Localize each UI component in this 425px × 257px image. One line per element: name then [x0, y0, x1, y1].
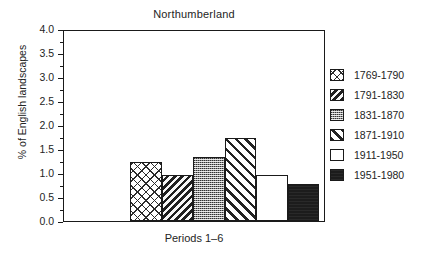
legend-swatch-icon — [330, 89, 344, 101]
legend-swatch-icon — [330, 69, 344, 81]
legend-item[interactable]: 1769-1790 — [330, 66, 422, 83]
legend-swatch-icon — [330, 169, 344, 181]
y-axis-tick-label: 2.0 — [39, 119, 54, 131]
bar — [288, 184, 320, 221]
legend-item[interactable]: 1951-1980 — [330, 167, 422, 184]
y-axis-minor-tick — [0, 210, 63, 211]
y-axis-tick: 1.5 — [0, 150, 63, 151]
plot-area — [63, 30, 325, 222]
y-axis-tick-mark — [58, 222, 63, 223]
y-axis-minor-tick — [0, 186, 63, 187]
y-axis-minor-tick — [0, 66, 63, 67]
legend-item[interactable]: 1871-1910 — [330, 127, 422, 144]
y-axis-tick: 0.0 — [0, 222, 63, 223]
y-axis-tick: 1.0 — [0, 174, 63, 175]
y-axis-tick-label: 0.5 — [39, 191, 54, 203]
legend-swatch-icon — [330, 129, 344, 141]
y-axis-tick-label: 3.0 — [39, 71, 54, 83]
legend-swatch-icon — [330, 149, 344, 161]
y-axis-minor-tick — [0, 162, 63, 163]
y-axis-tick-label: 4.0 — [39, 23, 54, 35]
chart-figure: Northumberland % of English landscapes 0… — [0, 0, 425, 257]
bar — [256, 175, 288, 221]
y-axis-minor-tick — [0, 42, 63, 43]
legend-item[interactable]: 1831-1870 — [330, 106, 422, 123]
y-axis-minor-tick — [0, 138, 63, 139]
y-axis-tick-label: 0.0 — [39, 215, 54, 227]
legend-item-label: 1951-1980 — [354, 169, 404, 181]
legend-item[interactable]: 1911-1950 — [330, 147, 422, 164]
bar — [193, 157, 225, 221]
legend-item-label: 1791-1830 — [354, 89, 404, 101]
x-axis-title: Periods 1–6 — [63, 232, 325, 244]
bar — [130, 162, 162, 221]
y-axis-tick-label: 2.5 — [39, 95, 54, 107]
y-axis-tick-label: 1.0 — [39, 167, 54, 179]
legend-item-label: 1911-1950 — [354, 149, 403, 161]
chart-title: Northumberland — [63, 8, 325, 20]
bar — [162, 175, 194, 221]
y-axis-tick: 3.0 — [0, 78, 63, 79]
y-axis-tick: 2.5 — [0, 102, 63, 103]
y-axis-tick: 3.5 — [0, 54, 63, 55]
legend-item-label: 1871-1910 — [354, 129, 404, 141]
chart-legend: 1769-17901791-18301831-18701871-19101911… — [330, 66, 422, 187]
y-axis-tick: 4.0 — [0, 30, 63, 31]
y-axis-tick: 2.0 — [0, 126, 63, 127]
bar — [225, 138, 257, 221]
y-axis-tick-label: 1.5 — [39, 143, 54, 155]
y-axis-tick: 0.5 — [0, 198, 63, 199]
legend-item-label: 1769-1790 — [354, 69, 404, 81]
y-axis-tick-label: 3.5 — [39, 47, 54, 59]
y-axis-minor-tick — [0, 90, 63, 91]
legend-swatch-icon — [330, 109, 344, 121]
legend-item[interactable]: 1791-1830 — [330, 86, 422, 103]
legend-item-label: 1831-1870 — [354, 109, 404, 121]
y-axis-minor-tick — [0, 114, 63, 115]
